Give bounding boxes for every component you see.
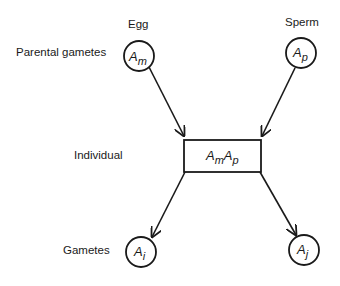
paternal-allele-base: A (292, 45, 302, 60)
individual-allele-2-sub: p (232, 154, 239, 166)
gamete-j-node: Aj (289, 235, 319, 265)
maternal-allele-sub: m (138, 55, 147, 67)
svg-text:AmAp: AmAp (205, 148, 239, 166)
svg-text:Am: Am (128, 49, 147, 67)
individual-allele-1-base: A (205, 148, 215, 163)
individual-allele-1-sub: m (215, 154, 224, 166)
arrow-individual-to-gamete-i (152, 172, 185, 237)
svg-text:Ai: Ai (133, 244, 146, 262)
gamete-i-node: Ai (126, 237, 156, 267)
gamete-i-sub: i (143, 250, 146, 262)
arrow-individual-to-gamete-j (260, 172, 296, 235)
arrow-egg-to-individual (149, 67, 184, 136)
individual-node: AmAp (184, 140, 261, 172)
maternal-gamete-node: Am (124, 41, 154, 71)
arrow-sperm-to-individual (262, 68, 295, 136)
paternal-gamete-node: Ap (286, 38, 316, 68)
paternal-allele-sub: p (301, 51, 308, 63)
gamete-i-base: A (133, 244, 143, 259)
individual-allele-2-base: A (223, 148, 233, 163)
svg-text:Aj: Aj (296, 242, 309, 260)
inheritance-diagram: Am Ap AmAp Ai Aj (0, 0, 340, 286)
gamete-j-base: A (296, 242, 306, 257)
maternal-allele-base: A (128, 49, 138, 64)
svg-text:Ap: Ap (292, 45, 308, 63)
